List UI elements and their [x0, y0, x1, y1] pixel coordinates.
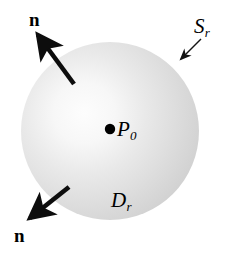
normal-vector-top-label: n — [29, 10, 40, 29]
center-point-dot — [105, 124, 115, 134]
normal-vector-bottom-label: n — [14, 226, 25, 245]
surface-label-subscript: r — [205, 25, 210, 40]
center-point-label-subscript: 0 — [130, 128, 137, 143]
figure-canvas — [0, 0, 232, 254]
center-point-label-symbol: P — [117, 117, 130, 141]
surface-label-pointer-arrow — [181, 39, 201, 59]
surface-label-symbol: S — [194, 14, 205, 38]
sphere-normals-figure: n n Sr Dr P0 — [0, 0, 232, 254]
center-point-label: P0 — [117, 119, 136, 140]
surface-label: Sr — [194, 16, 210, 37]
ball-label: Dr — [111, 190, 131, 211]
ball-label-subscript: r — [126, 199, 131, 214]
ball-label-symbol: D — [111, 188, 126, 212]
